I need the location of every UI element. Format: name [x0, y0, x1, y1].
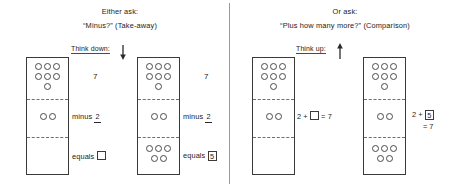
minus-label: minus [72, 112, 92, 121]
dot-row [253, 63, 294, 70]
left-heading-line2: “Minus?” (Take-away) [45, 21, 195, 31]
panel-divider [229, 3, 230, 184]
dot-row [138, 83, 179, 90]
counter-dot [44, 63, 51, 70]
dot-row [364, 63, 405, 70]
counter-dot [40, 113, 47, 120]
counter-dot [377, 113, 384, 120]
equals-label: equals [183, 151, 205, 160]
counter-dot [155, 63, 162, 70]
counter-dot [44, 73, 51, 80]
counter-dot [160, 155, 167, 162]
answer-blank-box[interactable] [310, 111, 319, 120]
minus-row-takeaway-solved: minus 2 [183, 112, 212, 123]
counter-dot [381, 63, 388, 70]
right-heading-line2: “Plus how many more?” (Comparison) [250, 21, 440, 31]
counter-dot [35, 63, 42, 70]
counter-dot [270, 73, 277, 80]
counter-dot [381, 145, 388, 152]
dot-row [27, 73, 68, 80]
dot-row [253, 113, 294, 120]
dot-row [364, 83, 405, 90]
equals-label: equals [72, 152, 94, 161]
counter-dot [164, 73, 171, 80]
counter-box-comparison-unsolved [252, 57, 295, 175]
counter-dot [155, 73, 162, 80]
counter-dot [381, 83, 388, 90]
equals-row-takeaway-solved: equals 5 [183, 151, 217, 161]
equation-comparison-solved-line1: 2 + 5 [412, 110, 434, 120]
dot-row [364, 145, 405, 152]
counter-dot [160, 113, 167, 120]
box-section-top [27, 58, 68, 99]
counter-dot [377, 155, 384, 162]
counter-dot [35, 73, 42, 80]
counter-dot [49, 113, 56, 120]
counter-dot [390, 145, 397, 152]
equation-tail: = 7 [321, 112, 332, 121]
answer-value-box: 5 [425, 110, 434, 120]
box-section-bottom [253, 137, 294, 176]
counter-dot [381, 73, 388, 80]
dot-row [253, 73, 294, 80]
counter-dot [266, 113, 273, 120]
right-heading-line1: Or ask: [265, 7, 425, 17]
counter-dot [44, 83, 51, 90]
box-section-bottom [364, 137, 405, 176]
counter-dot [155, 145, 162, 152]
counter-dot [386, 155, 393, 162]
dot-row [27, 113, 68, 120]
arrow-down-icon [118, 44, 128, 60]
minus-value: 2 [94, 112, 100, 123]
box-section-top [253, 58, 294, 99]
counter-dot [372, 73, 379, 80]
counter-dot [372, 63, 379, 70]
counter-dot [386, 113, 393, 120]
counter-dot [146, 63, 153, 70]
dot-row [364, 155, 405, 162]
total-value-takeaway-unsolved: 7 [93, 72, 98, 81]
box-section-middle [364, 99, 405, 137]
counter-box-takeaway-unsolved [26, 57, 69, 175]
dot-row [138, 73, 179, 80]
counter-dot [270, 83, 277, 90]
minus-label: minus [183, 112, 203, 121]
counter-dot [279, 63, 286, 70]
counter-dot [146, 73, 153, 80]
counter-dot [164, 145, 171, 152]
counter-dot [390, 63, 397, 70]
counter-box-takeaway-solved [137, 57, 180, 175]
dot-row [253, 83, 294, 90]
dot-row [364, 113, 405, 120]
counter-dot [146, 145, 153, 152]
counter-dot [53, 63, 60, 70]
answer-value-box: 5 [208, 151, 217, 161]
counter-dot [53, 73, 60, 80]
counter-dot [275, 113, 282, 120]
equation-lead: 2 + [297, 112, 308, 121]
counter-box-comparison-solved [363, 57, 406, 175]
box-section-middle [253, 99, 294, 137]
counter-dot [261, 73, 268, 80]
box-section-middle [138, 99, 179, 137]
left-heading-line1: Either ask: [45, 7, 195, 17]
answer-blank-box[interactable] [97, 151, 106, 160]
box-section-middle [27, 99, 68, 137]
equation-comparison-solved-line2: = 7 [423, 122, 433, 131]
box-section-top [138, 58, 179, 99]
box-section-top [364, 58, 405, 99]
minus-value: 2 [205, 112, 211, 123]
counter-dot [279, 73, 286, 80]
think-up-label: Think up: [296, 45, 326, 54]
counter-dot [261, 63, 268, 70]
counter-dot [270, 63, 277, 70]
equation-lead: 2 + [412, 110, 423, 119]
dot-row [138, 113, 179, 120]
dot-row [138, 145, 179, 152]
diagram-canvas: Either ask: “Minus?” (Take-away) Or ask:… [0, 0, 458, 187]
dot-row [138, 155, 179, 162]
arrow-up-icon [335, 43, 345, 59]
box-section-bottom [27, 137, 68, 176]
dot-row [27, 83, 68, 90]
dot-row [364, 73, 405, 80]
